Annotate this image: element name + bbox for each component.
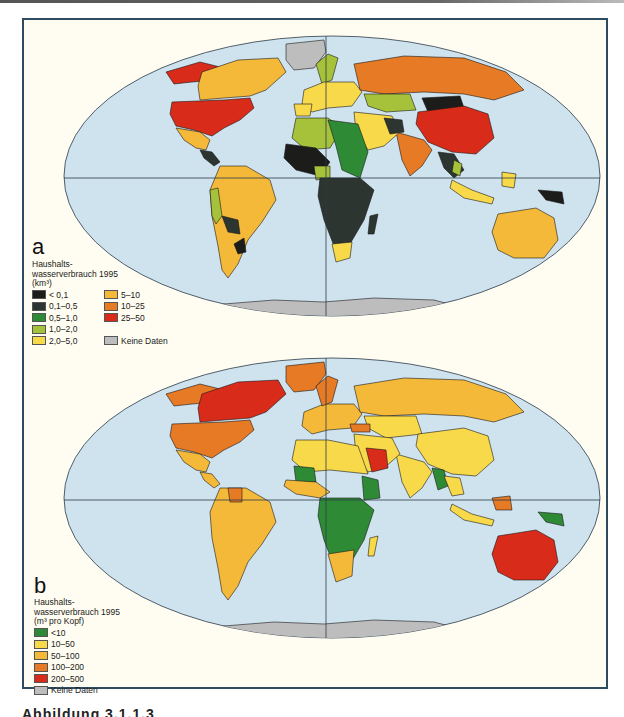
- panel-letter-a: a: [32, 236, 44, 258]
- legend-item: 1,0–2,0: [32, 324, 77, 336]
- legend-item: Keine Daten: [104, 335, 168, 347]
- new-zealand-a: [564, 252, 580, 270]
- legend-item: 5–10: [104, 289, 168, 301]
- figure-frame: a Haushalts- wasserverbrauch 1995 (km³) …: [22, 18, 608, 689]
- legend-title-b: Haushalts- wasserverbrauch 1995 (m³ pro …: [34, 598, 120, 627]
- legend-item: 10–50: [34, 639, 98, 651]
- legend-b: <10 10–50 50–100 100–200 200–500 Keine D…: [34, 627, 98, 696]
- australia-b: [492, 530, 558, 580]
- figure-caption: Abbildung 3.1.1.3: [22, 703, 155, 717]
- legend-a-col1: < 0,1 0,1–0,5 0,5–1,0 1,0–2,0 2,0–5,0: [32, 289, 77, 347]
- legend-a-col2: 5–10 10–25 25–50 Keine Daten: [104, 289, 168, 347]
- legend-item: 200–500: [34, 673, 98, 685]
- legend-item: 100–200: [34, 662, 98, 674]
- legend-item: <10: [34, 627, 98, 639]
- legend-item: < 0,1: [32, 289, 77, 301]
- legend-item: 10–25: [104, 301, 168, 313]
- iberia-a: [294, 104, 312, 116]
- ethiopia-b: [362, 476, 380, 500]
- legend-item: 0,5–1,0: [32, 312, 77, 324]
- new-zealand-b: [564, 574, 580, 592]
- legend-title-a: Haushalts- wasserverbrauch 1995 (km³): [32, 260, 118, 289]
- australia-a: [492, 208, 558, 258]
- turkey-b: [350, 424, 370, 432]
- legend-item: 25–50: [104, 312, 168, 324]
- world-map-a: [24, 20, 606, 687]
- legend-item: 0,1–0,5: [32, 301, 77, 313]
- legend-item: Keine Daten: [34, 685, 98, 697]
- borneo-a: [502, 172, 516, 188]
- legend-item: 50–100: [34, 650, 98, 662]
- mali-b: [294, 466, 316, 482]
- malaysia-b: [492, 496, 512, 510]
- legend-item: 2,0–5,0: [32, 335, 77, 347]
- top-rule: [0, 0, 624, 3]
- panel-letter-b: b: [34, 575, 46, 597]
